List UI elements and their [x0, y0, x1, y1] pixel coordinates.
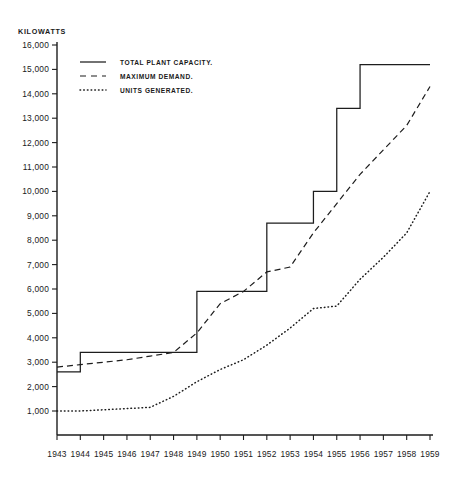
y-axis-unit-label: KILOWATTS — [18, 27, 66, 36]
x-axis-ticks: 1943194419451946194719481949195019511952… — [47, 435, 440, 459]
y-tick-label: 15,000 — [22, 64, 49, 74]
x-tick-label: 1947 — [141, 449, 161, 459]
x-tick-label: 1943 — [47, 449, 67, 459]
series-line-dotted — [57, 191, 430, 411]
x-tick-label: 1958 — [397, 449, 417, 459]
y-tick-label: 9,000 — [27, 211, 49, 221]
y-tick-label: 14,000 — [22, 89, 49, 99]
series-layer — [57, 65, 430, 411]
y-tick-label: 16,000 — [22, 40, 49, 50]
x-tick-label: 1957 — [374, 449, 394, 459]
y-tick-label: 12,000 — [22, 138, 49, 148]
y-tick-label: 5,000 — [27, 308, 49, 318]
series-line-solid — [57, 65, 430, 372]
x-tick-label: 1952 — [257, 449, 277, 459]
y-tick-label: 10,000 — [22, 186, 49, 196]
x-tick-label: 1949 — [187, 449, 207, 459]
y-tick-label: 11,000 — [23, 162, 49, 172]
x-tick-label: 1950 — [210, 449, 230, 459]
chart-legend: TOTAL PLANT CAPACITY.MAXIMUM DEMAND.UNIT… — [80, 59, 213, 94]
chart-container: KILOWATTS 1,0002,0003,0004,0005,0006,000… — [0, 0, 459, 480]
y-tick-label: 7,000 — [27, 260, 49, 270]
y-tick-label: 13,000 — [22, 113, 49, 123]
x-tick-label: 1951 — [234, 449, 254, 459]
y-axis-ticks: 1,0002,0003,0004,0005,0006,0007,0008,000… — [22, 40, 57, 416]
legend-label: TOTAL PLANT CAPACITY. — [120, 59, 213, 66]
y-tick-label: 3,000 — [27, 357, 49, 367]
x-tick-label: 1945 — [94, 449, 114, 459]
series-line-dashed — [57, 86, 430, 367]
x-tick-label: 1959 — [420, 449, 440, 459]
y-tick-label: 2,000 — [27, 382, 49, 392]
x-tick-label: 1946 — [117, 449, 137, 459]
y-tick-label: 8,000 — [27, 235, 49, 245]
x-tick-label: 1953 — [280, 449, 300, 459]
x-tick-label: 1944 — [71, 449, 91, 459]
legend-label: MAXIMUM DEMAND. — [120, 73, 193, 80]
y-tick-label: 4,000 — [27, 333, 49, 343]
power-capacity-chart: KILOWATTS 1,0002,0003,0004,0005,0006,000… — [0, 0, 459, 480]
y-tick-label: 6,000 — [27, 284, 49, 294]
x-tick-label: 1954 — [304, 449, 324, 459]
x-tick-label: 1955 — [327, 449, 347, 459]
x-tick-label: 1948 — [164, 449, 184, 459]
x-tick-label: 1956 — [350, 449, 370, 459]
y-tick-label: 1,000 — [27, 406, 49, 416]
legend-label: UNITS GENERATED. — [120, 87, 193, 94]
